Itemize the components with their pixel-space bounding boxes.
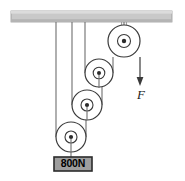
ceiling-bar-shadow: [11, 19, 172, 22]
diagram-canvas: F 800N: [0, 0, 185, 181]
pulley-diagram-figure: F 800N: [0, 0, 185, 181]
pulley-top-right: [108, 22, 140, 57]
ceiling-bar-highlight: [11, 11, 172, 14]
force-arrow-head: [137, 77, 144, 86]
pulley-lower-axle: [69, 135, 73, 139]
pulley-top-right-axle: [122, 39, 126, 43]
ceiling-support-bar: [11, 11, 172, 22]
pulley-middle-movable: [72, 90, 102, 120]
force-label-F: F: [136, 87, 146, 102]
pulley-middle-axle: [85, 103, 89, 107]
pulley-lower-movable: [56, 122, 86, 157]
pulley-upper-movable: [85, 59, 113, 88]
pulley-upper-axle: [97, 71, 101, 75]
load-weight-label: 800N: [61, 157, 85, 169]
applied-force-F: F: [136, 57, 146, 102]
hanging-load: 800N: [54, 157, 92, 171]
